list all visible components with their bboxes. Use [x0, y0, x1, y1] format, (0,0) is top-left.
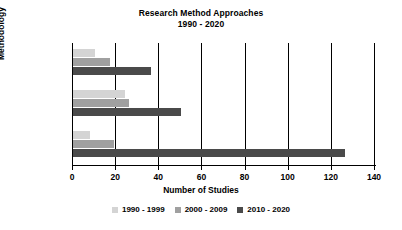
- bar: [73, 49, 95, 57]
- x-tick-label: 0: [57, 172, 87, 182]
- legend-swatch-icon: [237, 207, 243, 213]
- bar: [73, 58, 110, 66]
- chart-legend: 1990 - 19992000 - 20092010 - 2020: [0, 205, 402, 214]
- x-tick-mark: [245, 165, 246, 170]
- bar: [73, 108, 181, 116]
- chart-subtitle: 1990 - 2020: [0, 19, 402, 30]
- chart-container: Research Method Approaches 1990 - 2020 M…: [0, 0, 402, 230]
- gridline: [374, 43, 375, 165]
- bar-group: [73, 90, 374, 116]
- bar: [73, 149, 345, 157]
- y-axis-title: Methodology: [0, 7, 6, 60]
- bar-group: [73, 49, 374, 75]
- bar: [73, 131, 90, 139]
- x-axis-title: Number of Studies: [0, 185, 402, 195]
- x-tick-label: 140: [359, 172, 389, 182]
- legend-swatch-icon: [112, 207, 118, 213]
- plot-area: MMQualQuant: [72, 43, 374, 165]
- x-tick-label: 20: [100, 172, 130, 182]
- legend-swatch-icon: [175, 207, 181, 213]
- legend-item[interactable]: 1990 - 1999: [112, 205, 165, 214]
- x-tick-mark: [288, 165, 289, 170]
- x-tick-mark: [72, 165, 73, 170]
- x-tick-mark: [374, 165, 375, 170]
- bar-group: [73, 131, 374, 157]
- chart-title-block: Research Method Approaches 1990 - 2020: [0, 8, 402, 30]
- x-tick-label: 60: [186, 172, 216, 182]
- legend-item[interactable]: 2010 - 2020: [237, 205, 290, 214]
- x-tick-mark: [115, 165, 116, 170]
- x-tick-label: 100: [273, 172, 303, 182]
- bar: [73, 67, 151, 75]
- x-tick-mark: [158, 165, 159, 170]
- bar: [73, 99, 129, 107]
- x-tick-label: 40: [143, 172, 173, 182]
- x-tick-mark: [201, 165, 202, 170]
- bar: [73, 140, 114, 148]
- legend-label: 1990 - 1999: [122, 205, 165, 214]
- x-tick-label: 80: [230, 172, 260, 182]
- legend-label: 2000 - 2009: [185, 205, 228, 214]
- legend-label: 2010 - 2020: [247, 205, 290, 214]
- bar: [73, 90, 125, 98]
- x-tick-mark: [331, 165, 332, 170]
- legend-item[interactable]: 2000 - 2009: [175, 205, 228, 214]
- chart-title: Research Method Approaches: [0, 8, 402, 19]
- x-tick-label: 120: [316, 172, 346, 182]
